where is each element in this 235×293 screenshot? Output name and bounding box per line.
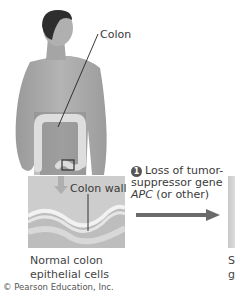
normal-cells-caption: Normal colon epithelial cells [30, 254, 109, 282]
colon-label: Colon [100, 28, 131, 41]
caption-line-2: epithelial cells [30, 268, 109, 282]
step-1-label: 1Loss of tumor- suppressor gene APC (or … [131, 165, 223, 201]
caption-line-1: Normal colon [30, 254, 109, 268]
copyright-notice: © Pearson Education, Inc. [3, 282, 114, 292]
colon-wall-label: Colon wall [70, 182, 127, 195]
human-figure [0, 0, 130, 180]
next-stage-caption: Sı g [228, 254, 235, 282]
right-arrow-icon [136, 206, 220, 225]
gene-name: APC [131, 188, 153, 201]
step-1-line3: (or other) [153, 188, 209, 201]
next-stage-panel [228, 176, 235, 248]
next-caption-line-2: g [228, 268, 235, 282]
next-caption-line-1: Sı [228, 254, 235, 268]
